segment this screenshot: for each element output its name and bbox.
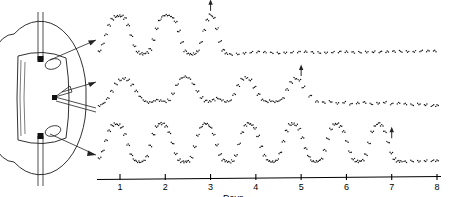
figure-root: 12345678Days xyxy=(0,0,462,197)
top-trace-annotation-arrow xyxy=(208,0,212,11)
bottom-trace xyxy=(98,122,439,164)
x-axis: 12345678Days xyxy=(97,174,441,197)
top-trace xyxy=(98,0,437,56)
middle-trace-annotation-arrow xyxy=(299,65,303,77)
x-tick-label-2: 2 xyxy=(163,182,168,192)
bottom-trace-annotation-arrow xyxy=(390,127,394,139)
electrode-lower xyxy=(38,133,44,186)
brain-diagram xyxy=(0,0,110,197)
x-tick-label-7: 7 xyxy=(389,182,394,192)
traces-panel: 12345678Days xyxy=(95,0,462,197)
x-tick-label-4: 4 xyxy=(253,182,258,192)
x-axis-title: Days xyxy=(223,193,244,197)
middle-trace xyxy=(98,65,439,108)
lead-to-middle-trace xyxy=(62,82,96,92)
x-tick-label-8: 8 xyxy=(434,182,439,192)
electrode-upper xyxy=(38,12,44,62)
x-tick-label-6: 6 xyxy=(344,182,349,192)
x-tick-label-1: 1 xyxy=(117,182,122,192)
x-tick-label-3: 3 xyxy=(208,182,213,192)
electrode-middle xyxy=(52,86,96,112)
recording-site-lower xyxy=(44,124,62,138)
x-tick-label-5: 5 xyxy=(299,182,304,192)
